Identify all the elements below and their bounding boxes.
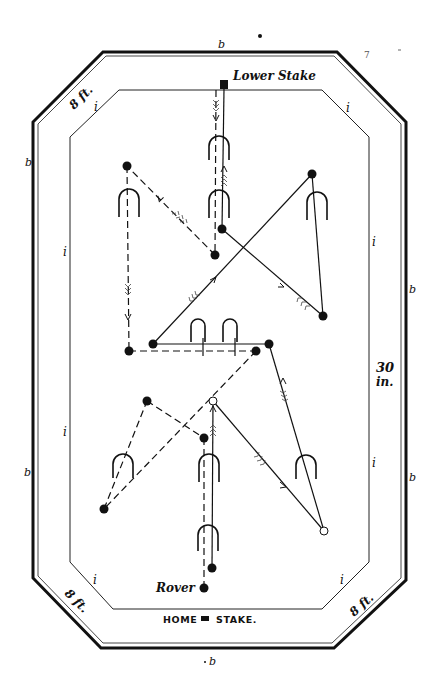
ball-12 — [100, 505, 109, 514]
wicket-2 — [119, 189, 139, 217]
rover-label: Rover — [155, 581, 197, 595]
croquet-court-diagram: b b b b b b 7 i i i i i i i i 8 ft. 8 ft… — [0, 0, 440, 700]
ball-8 — [252, 347, 261, 356]
marker-dot-bottom — [204, 661, 206, 663]
width-value: 30 — [376, 360, 394, 375]
lower-stake-marker — [220, 80, 228, 89]
lower-stake-label: Lower Stake — [232, 69, 316, 83]
stray-dot-top — [258, 34, 262, 38]
ball-1 — [123, 162, 132, 171]
marker-i-bottom-left: i — [93, 573, 97, 587]
marker-b-right-upper: b — [409, 283, 416, 296]
ball-5 — [319, 312, 328, 321]
home-stake-marker — [201, 616, 209, 621]
home-stake-label-right: STAKE. — [216, 614, 257, 625]
wicket-8 — [199, 454, 219, 482]
marker-i-left-lower: i — [63, 425, 67, 439]
arrow-icon — [221, 166, 227, 172]
ball-open-2 — [320, 527, 328, 535]
wicket-crossbars — [203, 338, 235, 356]
wicket-10 — [198, 525, 218, 551]
ball-rover — [200, 584, 209, 593]
marker-b-left-upper: b — [25, 156, 32, 169]
ball-2 — [211, 251, 220, 260]
wicket-1 — [209, 136, 229, 160]
arrow-icon — [125, 314, 131, 320]
width-unit: in. — [376, 375, 393, 389]
ball-3 — [218, 225, 227, 234]
marker-i-bottom-right: i — [340, 573, 344, 587]
marker-b-right-lower: b — [409, 471, 416, 484]
arrow-icon — [156, 194, 164, 202]
marker-i-right-upper: i — [372, 235, 376, 249]
wicket-7 — [113, 454, 133, 478]
balls — [100, 162, 329, 593]
marker-b-top: b — [218, 38, 225, 51]
direction-arrows — [125, 100, 310, 488]
wicket-4 — [307, 192, 327, 220]
marker-i-top-right: i — [346, 101, 350, 115]
width-label: 30 in. — [376, 360, 394, 389]
home-stake-label-left: HOME — [163, 614, 197, 625]
label-8ft-top-left: 8 ft. — [66, 83, 95, 112]
ball-7 — [149, 340, 158, 349]
marker-b-left-lower: b — [24, 466, 31, 479]
marker-i-left-upper: i — [63, 245, 67, 259]
arrow-icon — [278, 283, 284, 287]
ball-open-1 — [209, 397, 217, 405]
ball-6 — [125, 347, 134, 356]
stray-mark: 7 — [364, 50, 370, 60]
ball-11 — [200, 434, 209, 443]
ball-9 — [265, 340, 274, 349]
marker-i-top-left: i — [94, 100, 98, 114]
marker-i-right-lower: i — [372, 456, 376, 470]
ball-10 — [143, 397, 152, 406]
ball-4 — [308, 170, 317, 179]
wicket-3 — [209, 190, 229, 218]
outer-boundary — [33, 52, 406, 648]
solid-route — [153, 89, 324, 568]
home-stake: HOME STAKE. — [163, 614, 257, 625]
lower-stake: Lower Stake — [220, 69, 316, 89]
ball-13 — [208, 564, 217, 573]
arrow-icon — [280, 378, 286, 384]
wicket-9 — [296, 455, 316, 479]
marker-b-bottom: b — [209, 655, 216, 668]
